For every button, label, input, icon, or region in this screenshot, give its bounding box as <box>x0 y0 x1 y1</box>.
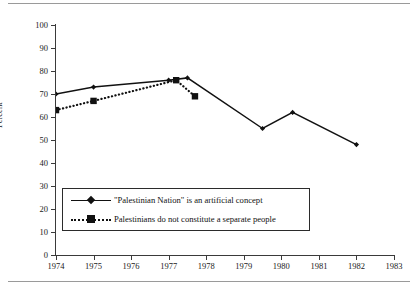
legend-item-separate-people: Palestinians do not constitute a separat… <box>71 213 276 225</box>
series-1-marker-2 <box>173 77 179 83</box>
x-tick-label: 1974 <box>36 262 76 271</box>
chart-legend: "Palestinian Nation" is an artificial co… <box>62 188 310 231</box>
bottom-divider-rule <box>8 281 410 282</box>
series-line-0 <box>56 78 356 145</box>
x-tick-label: 1979 <box>224 262 264 271</box>
x-tick-mark <box>356 256 357 260</box>
x-tick-label: 1977 <box>149 262 189 271</box>
x-tick-label: 1980 <box>261 262 301 271</box>
top-divider-rule <box>8 3 410 4</box>
legend-key-solid-diamond-icon <box>71 195 111 206</box>
legend-key-dotted-square-icon <box>71 214 111 225</box>
y-axis-title: Percent <box>0 103 4 129</box>
series-1-marker-0 <box>56 107 59 113</box>
x-tick-mark <box>244 256 245 260</box>
x-tick-mark <box>206 256 207 260</box>
x-tick-mark <box>131 256 132 260</box>
x-tick-label: 1983 <box>374 262 414 271</box>
x-tick-mark <box>94 256 95 260</box>
series-0-marker-0 <box>56 91 59 96</box>
x-tick-label: 1976 <box>111 262 151 271</box>
x-tick-label: 1982 <box>336 262 376 271</box>
x-axis-line <box>55 255 395 256</box>
series-1-marker-1 <box>90 98 96 104</box>
x-tick-label: 1975 <box>74 262 114 271</box>
x-tick-mark <box>394 256 395 260</box>
x-tick-mark <box>56 256 57 260</box>
series-1-marker-3 <box>192 93 198 99</box>
x-tick-label: 1978 <box>186 262 226 271</box>
chart-figure: Percent 0102030405060708090100 197419751… <box>0 0 418 291</box>
x-tick-mark <box>169 256 170 260</box>
x-tick-mark <box>319 256 320 260</box>
series-0-marker-6 <box>354 142 359 147</box>
legend-item-artificial-concept: "Palestinian Nation" is an artificial co… <box>71 194 263 206</box>
legend-label-separate-people: Palestinians do not constitute a separat… <box>114 214 276 225</box>
x-tick-label: 1981 <box>299 262 339 271</box>
x-tick-mark <box>281 256 282 260</box>
series-0-marker-1 <box>91 85 96 90</box>
legend-label-artificial-concept: "Palestinian Nation" is an artificial co… <box>114 195 263 206</box>
